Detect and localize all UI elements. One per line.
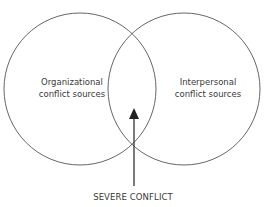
venn-diagram	[0, 0, 265, 207]
organizational-label: Organizational conflict sources	[22, 76, 122, 100]
label-line: Organizational	[22, 76, 122, 88]
severe-conflict-label: SEVERE CONFLICT	[73, 191, 193, 203]
arrow-head-icon	[129, 108, 139, 119]
label-line: Interpersonal	[158, 76, 258, 88]
interpersonal-label: Interpersonal conflict sources	[158, 76, 258, 100]
label-line: conflict sources	[158, 88, 258, 100]
label-line: conflict sources	[22, 88, 122, 100]
